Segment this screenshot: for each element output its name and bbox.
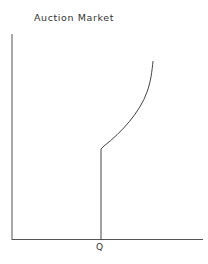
quantity-marker-label: Q (96, 242, 103, 252)
diagram-canvas (0, 0, 208, 264)
rising-curve (101, 61, 153, 149)
